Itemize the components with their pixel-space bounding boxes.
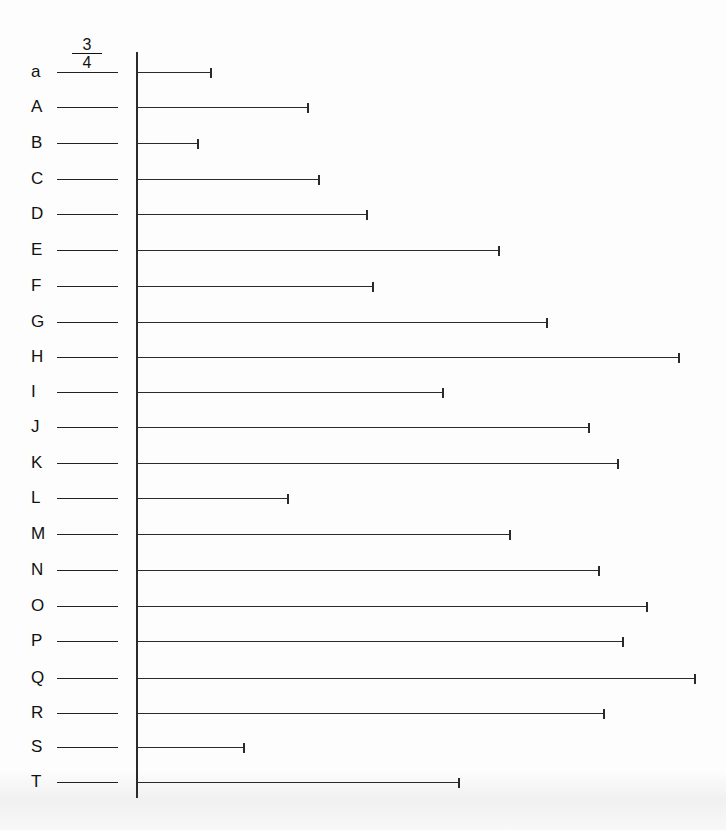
measurement-bar xyxy=(138,570,599,571)
row-label: R xyxy=(31,704,43,721)
bar-end-tick xyxy=(287,494,289,504)
row-label: P xyxy=(31,632,42,649)
row-label: J xyxy=(31,418,40,435)
bar-end-tick xyxy=(366,210,368,220)
row-label: O xyxy=(31,597,44,614)
bar-end-tick xyxy=(617,459,619,469)
bar-end-tick xyxy=(318,175,320,185)
row-label: E xyxy=(31,241,42,258)
measurement-bar xyxy=(138,463,618,464)
worksheet-row-J: J xyxy=(0,427,726,463)
row-label: N xyxy=(31,561,43,578)
worksheet-row-S: S xyxy=(0,747,726,783)
worksheet-row-M: M xyxy=(0,534,726,570)
worksheet-row-B: B xyxy=(0,143,726,179)
answer-blank[interactable] xyxy=(57,534,118,535)
row-label: G xyxy=(31,313,44,330)
worksheet-row-a: a34 xyxy=(0,72,726,108)
worksheet-row-K: K xyxy=(0,463,726,499)
row-label: B xyxy=(31,134,42,151)
answer-blank[interactable] xyxy=(57,214,118,215)
answer-blank[interactable] xyxy=(57,427,118,428)
bar-end-tick xyxy=(598,566,600,576)
worksheet-row-G: G xyxy=(0,322,726,358)
row-label: T xyxy=(31,773,41,790)
measurement-bar xyxy=(138,143,198,144)
worksheet-row-R: R xyxy=(0,713,726,749)
row-label: I xyxy=(31,383,36,400)
answer-blank[interactable] xyxy=(57,357,118,358)
measurement-bar xyxy=(138,286,373,287)
measurement-bar xyxy=(138,179,319,180)
worksheet-row-Q: Q xyxy=(0,678,726,714)
worksheet-row-H: H xyxy=(0,357,726,393)
row-label: D xyxy=(31,205,43,222)
worksheet-row-N: N xyxy=(0,570,726,606)
measurement-bar xyxy=(138,72,211,73)
measurement-bar xyxy=(138,392,443,393)
bar-end-tick xyxy=(646,602,648,612)
fraction-numerator: 3 xyxy=(72,36,102,54)
measurement-bar xyxy=(138,747,244,748)
measurement-bar xyxy=(138,427,589,428)
bar-end-tick xyxy=(498,246,500,256)
measurement-bar xyxy=(138,782,459,783)
answer-blank[interactable] xyxy=(57,782,118,783)
row-label: S xyxy=(31,738,42,755)
measurement-bar xyxy=(138,357,679,358)
row-label: F xyxy=(31,277,41,294)
worksheet-row-P: P xyxy=(0,641,726,677)
worksheet-row-L: L xyxy=(0,498,726,534)
bar-end-tick xyxy=(210,68,212,78)
answer-blank[interactable] xyxy=(57,678,118,679)
answer-blank[interactable] xyxy=(57,72,118,73)
measurement-bar xyxy=(138,250,499,251)
answer-blank[interactable] xyxy=(57,322,118,323)
bar-end-tick xyxy=(197,139,199,149)
row-label: M xyxy=(31,525,45,542)
answer-blank[interactable] xyxy=(57,747,118,748)
answer-blank[interactable] xyxy=(57,713,118,714)
row-label: Q xyxy=(31,669,44,686)
worksheet-row-T: T xyxy=(0,782,726,818)
answer-blank[interactable] xyxy=(57,641,118,642)
answer-blank[interactable] xyxy=(57,570,118,571)
answer-blank[interactable] xyxy=(57,498,118,499)
measurement-bar xyxy=(138,641,623,642)
answer-blank[interactable] xyxy=(57,463,118,464)
answer-blank[interactable] xyxy=(57,179,118,180)
worksheet-row-F: F xyxy=(0,286,726,322)
measurement-bar xyxy=(138,214,367,215)
answer-blank[interactable] xyxy=(57,286,118,287)
measurement-bar xyxy=(138,713,604,714)
bar-end-tick xyxy=(307,103,309,113)
measurement-bar xyxy=(138,322,547,323)
measurement-bar xyxy=(138,534,510,535)
answer-blank[interactable] xyxy=(57,107,118,108)
row-label: H xyxy=(31,348,43,365)
worksheet-row-A: A xyxy=(0,107,726,143)
answer-blank[interactable] xyxy=(57,143,118,144)
answer-blank[interactable] xyxy=(57,606,118,607)
row-label: K xyxy=(31,454,42,471)
row-label: A xyxy=(31,98,42,115)
row-label: L xyxy=(31,489,40,506)
bar-end-tick xyxy=(442,388,444,398)
example-answer-fraction: 34 xyxy=(72,36,102,71)
answer-blank[interactable] xyxy=(57,250,118,251)
row-label: C xyxy=(31,170,43,187)
bar-end-tick xyxy=(509,530,511,540)
bar-end-tick xyxy=(458,778,460,788)
bar-end-tick xyxy=(622,637,624,647)
bar-end-tick xyxy=(694,674,696,684)
worksheet-row-E: E xyxy=(0,250,726,286)
bar-end-tick xyxy=(678,353,680,363)
measurement-bar xyxy=(138,107,308,108)
worksheet-row-C: C xyxy=(0,179,726,215)
bar-end-tick xyxy=(603,709,605,719)
bar-end-tick xyxy=(546,318,548,328)
bar-end-tick xyxy=(243,743,245,753)
answer-blank[interactable] xyxy=(57,392,118,393)
row-label: a xyxy=(31,63,40,80)
measurement-bar xyxy=(138,678,695,679)
